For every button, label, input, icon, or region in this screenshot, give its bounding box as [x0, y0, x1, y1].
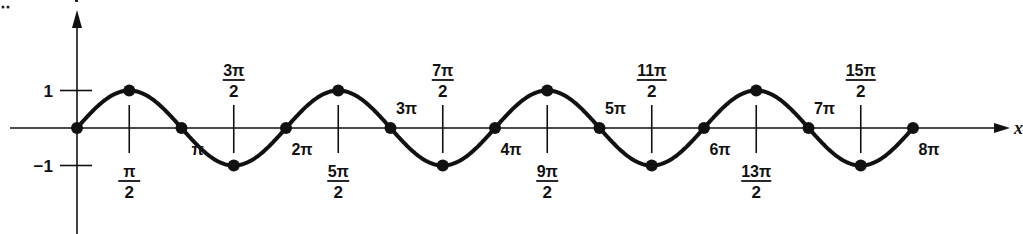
data-point-7 — [437, 160, 449, 172]
x-tick-label-denominator: 2 — [543, 183, 552, 202]
x-tick-label-numerator: 5π — [328, 163, 349, 180]
x-axis-arrow-icon — [994, 123, 1010, 133]
sine-wave-plot: x 1−1π2π3π22π5π23π7π24π9π25π11π26π13π27π… — [0, 0, 1023, 234]
data-point-15 — [855, 160, 867, 172]
data-point-0 — [71, 122, 83, 134]
x-tick-label-numerator: 3π — [223, 62, 244, 79]
data-point-11 — [646, 160, 658, 172]
x-tick-label: 7π — [814, 100, 835, 117]
crop-artifacts — [2, 0, 79, 9]
data-point-12 — [698, 122, 710, 134]
x-tick-label-denominator: 2 — [334, 183, 343, 202]
data-point-14 — [803, 122, 815, 134]
data-point-10 — [594, 122, 606, 134]
data-point-2 — [176, 122, 188, 134]
data-point-4 — [280, 122, 292, 134]
data-point-9 — [541, 85, 553, 97]
data-point-16 — [907, 122, 919, 134]
data-point-5 — [332, 85, 344, 97]
x-tick-label-denominator: 2 — [229, 82, 238, 101]
y-tick-label: −1 — [34, 157, 53, 176]
x-tick-label-numerator: π — [123, 163, 135, 180]
x-tick-label-denominator: 2 — [856, 82, 865, 101]
x-tick-label-denominator: 2 — [752, 183, 761, 202]
x-tick-label: π — [191, 141, 203, 158]
x-tick-label-numerator: 13π — [741, 163, 771, 180]
x-tick-label: 4π — [500, 141, 521, 158]
y-axis-arrow-icon — [72, 10, 82, 28]
x-tick-label-numerator: 7π — [432, 62, 453, 79]
x-tick-label: 5π — [605, 100, 626, 117]
x-tick-label: 8π — [918, 141, 939, 158]
tick-labels: 1−1π2π3π22π5π23π7π24π9π25π11π26π13π27π15… — [34, 62, 940, 202]
x-tick-label: 3π — [396, 100, 417, 117]
data-point-3 — [228, 160, 240, 172]
data-point-13 — [750, 85, 762, 97]
x-tick-label-numerator: 9π — [537, 163, 558, 180]
x-tick-label-denominator: 2 — [438, 82, 447, 101]
x-tick-label: 2π — [291, 141, 312, 158]
data-point-8 — [489, 122, 501, 134]
x-tick-label-denominator: 2 — [125, 183, 134, 202]
y-tick-label: 1 — [44, 82, 53, 101]
data-point-1 — [123, 85, 135, 97]
data-point-6 — [385, 122, 397, 134]
x-tick-label-numerator: 11π — [637, 62, 666, 79]
x-tick-label-numerator: 15π — [846, 62, 876, 79]
x-axis-label: x — [1013, 118, 1023, 138]
x-tick-label-denominator: 2 — [647, 82, 656, 101]
x-tick-label: 6π — [709, 141, 730, 158]
axes: x — [10, 10, 1023, 234]
